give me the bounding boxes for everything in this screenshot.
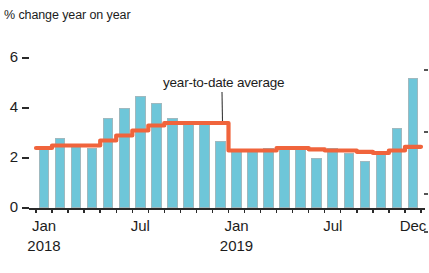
annotation-year-to-date-average: year-to-date average <box>163 75 284 90</box>
right-edge-tick-lower <box>424 193 428 195</box>
line-overlay <box>0 0 429 273</box>
annotation-leader-line <box>222 92 223 121</box>
year-to-date-average-line <box>36 123 421 153</box>
right-edge-tick-mid <box>424 131 428 133</box>
right-edge-tick-upper <box>424 69 428 71</box>
right-edge-tick-bottom <box>424 231 428 233</box>
chart-container: % change year on year 0246 Jan2018JulJan… <box>0 0 429 273</box>
